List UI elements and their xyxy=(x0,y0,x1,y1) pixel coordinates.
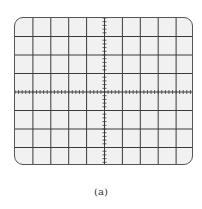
oscilloscope-screen xyxy=(14,17,193,165)
graticule-grid xyxy=(15,18,193,165)
figure-caption: (a) xyxy=(0,186,202,197)
